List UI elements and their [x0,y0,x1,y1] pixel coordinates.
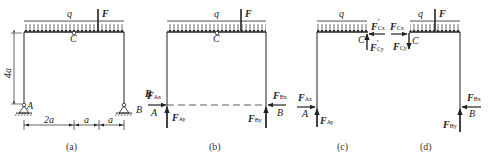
panel-d: q F C FCx FCy FBx B FBy (d) [389,8,481,153]
caption-c: (c) [337,141,348,153]
label-fcy-prime: FCy′ [369,38,384,53]
label-b: B [469,108,475,119]
caption-d: (d) [420,141,432,153]
label-fcx-prime: FCx′ [370,17,385,32]
distributed-load-q [317,21,367,32]
label-f: F [438,8,446,19]
label-fay: FAy [171,112,185,123]
distributed-load-q [24,21,124,32]
dim-a-2: a [108,114,113,125]
label-a: A [301,108,309,119]
label-fay: FAy [319,115,333,126]
label-a: A [26,100,34,111]
label-fbx: FBx [272,90,287,101]
panel-b: q F C FAx A FAy FBx B FBy (b) [146,8,287,153]
frame-diagram: q F C A B 4a [0,0,489,167]
label-c: C [412,35,419,46]
dim-a-1: a [84,114,89,125]
caption-a: (a) [66,141,77,153]
label-b: B [136,104,142,115]
dim-2a: 2a [44,114,54,125]
pin-support-b [115,103,132,116]
label-q: q [67,8,72,19]
label-c: C [358,34,365,45]
label-f: F [101,8,109,19]
label-fbx: FBx [466,92,481,103]
label-q: q [339,8,344,19]
label-f: F [244,8,252,19]
label-fby: FBy [442,119,457,130]
label-fcy: FCy [392,41,407,52]
label-q: q [418,8,423,19]
label-fax: FAx [297,92,312,103]
label-fax: FAx [146,90,161,101]
label-c: C [70,33,77,44]
distributed-load-q [167,21,266,32]
label-fby: FBy [247,113,262,124]
panel-a: q F C A B 4a [2,8,142,153]
label-fcx: FCx [389,21,404,32]
label-q: q [214,8,219,19]
caption-b: (b) [209,141,221,153]
label-4a: 4a [2,68,13,78]
label-a: A [150,107,158,118]
panel-c: q C FCx′ FCy′ FAx A FAy (c) [297,8,385,153]
label-c: C [213,33,220,44]
label-b: B [277,107,283,118]
